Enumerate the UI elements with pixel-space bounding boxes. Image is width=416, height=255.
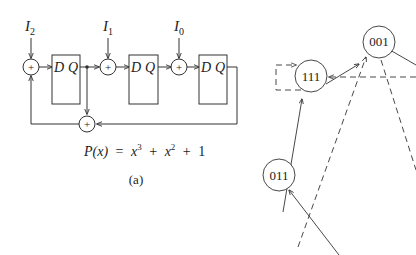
xor-plus-3: + [176,61,182,73]
xor-plus-feedback: + [84,118,90,130]
edge-111-to-001 [326,64,359,84]
state-label-111: 111 [302,69,321,84]
state-graph [263,26,416,255]
polynomial-equation: P(x) = x3 + x2 + 1 [83,138,205,160]
edge-in-to-011 [289,190,339,255]
edge-dashed-from-001 [381,60,416,170]
state-label-011: 011 [269,168,288,183]
xor-plus-2: + [105,61,111,73]
edge-001-out [390,50,416,65]
state-label-001: 001 [369,34,389,49]
xor-symbols: + + + + [28,61,182,130]
lfsr-circuit [23,38,237,132]
ff3-q-label: Q [215,60,225,75]
figure-canvas: + + + + I2 I1 I0 D Q D Q D Q P(x) = x3 +… [0,0,416,255]
input-label-i1: I1 [102,18,113,37]
figure-caption: (a) [129,172,143,187]
input-label-i2: I2 [24,18,35,37]
ff2-d-label: D [130,60,141,75]
ff3-d-label: D [200,60,211,75]
ff2-q-label: Q [145,60,155,75]
ff1-q-label: Q [68,60,78,75]
input-labels: I2 I1 I0 [24,18,184,37]
input-label-i0: I0 [173,18,184,37]
ff1-d-label: D [53,60,64,75]
xor-plus-1: + [28,61,34,73]
